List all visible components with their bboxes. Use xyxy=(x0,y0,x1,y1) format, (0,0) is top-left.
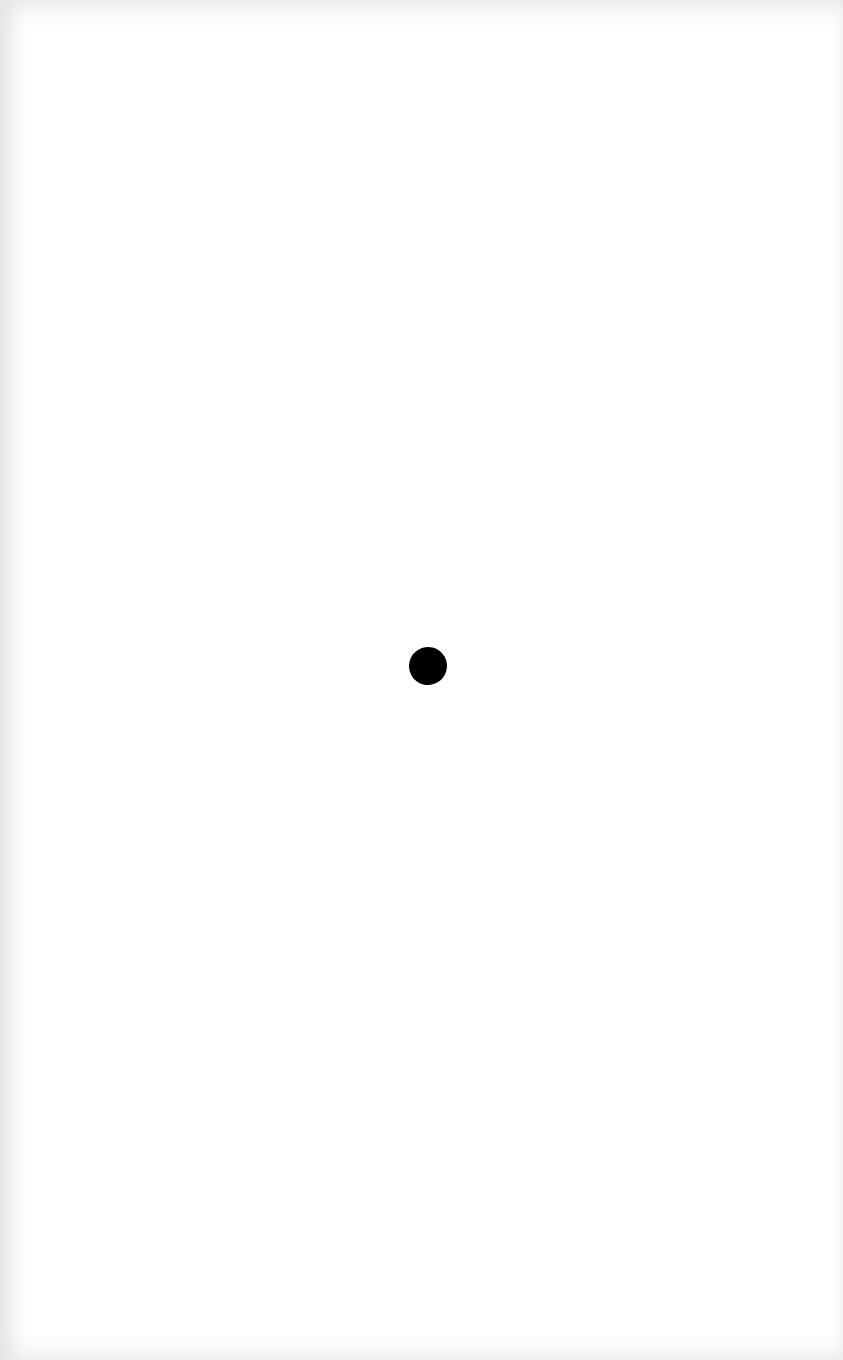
blank-paper-page xyxy=(0,0,843,1360)
black-dot xyxy=(407,645,450,688)
